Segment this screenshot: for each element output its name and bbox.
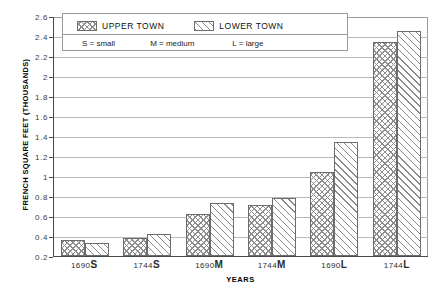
bar-group <box>179 17 241 256</box>
y-axis-tick-mark <box>49 217 53 218</box>
legend-swatch-upper-town <box>77 21 97 31</box>
y-axis-tick-label: 0.6 <box>18 213 48 222</box>
y-axis-tick-label: 2 <box>18 73 48 82</box>
y-axis-tick-label: 0.8 <box>18 193 48 202</box>
y-axis-tick-label: 2.2 <box>18 53 48 62</box>
legend-series-row: UPPER TOWN LOWER TOWN <box>63 17 347 34</box>
y-axis-tick-mark <box>49 177 53 178</box>
bar-lower-town <box>334 142 358 256</box>
bar-chart: FRENCH SQUARE FEET (THOUSANDS) 2.62.42.2… <box>0 0 441 303</box>
x-axis-tick-label: 1690L <box>303 259 365 270</box>
bar-lower-town <box>210 203 234 256</box>
x-axis-tick-label: 1744S <box>116 259 178 270</box>
y-axis-tick-mark <box>49 137 53 138</box>
legend-note-row: S = small M = medium L = large <box>63 35 347 51</box>
x-axis-tick-label: 1690M <box>178 259 240 270</box>
bar-upper-town <box>373 42 397 256</box>
x-axis-tick-label: 1744M <box>241 259 303 270</box>
y-axis-tick-mark <box>49 97 53 98</box>
bar-group <box>241 17 303 256</box>
x-axis-ticks: 1690S1744S1690M1744M1690L1744L <box>53 259 428 270</box>
y-axis-tick-mark <box>49 37 53 38</box>
y-axis-tick-mark <box>49 57 53 58</box>
y-axis-tick-label: 2.6 <box>18 13 48 22</box>
y-axis-tick-label: 0.2 <box>18 253 48 262</box>
y-axis-tick-label: 1 <box>18 173 48 182</box>
y-axis-tick-mark <box>49 77 53 78</box>
legend-label-upper-town: UPPER TOWN <box>102 21 164 31</box>
plot-area <box>53 17 428 257</box>
y-axis-tick-mark <box>49 157 53 158</box>
bar-upper-town <box>123 238 147 256</box>
bar-upper-town <box>248 205 272 256</box>
y-axis-tick-mark <box>49 197 53 198</box>
note-medium: M = medium <box>150 39 194 48</box>
bar-lower-town <box>397 31 421 256</box>
bar-lower-town <box>272 198 296 256</box>
legend: UPPER TOWN LOWER TOWN S = small M = medi… <box>62 13 348 51</box>
y-axis-tick-label: 0.4 <box>18 233 48 242</box>
x-axis-tick-label: 1744L <box>366 259 428 270</box>
y-axis-tick-mark <box>49 257 53 258</box>
y-axis-tick-mark <box>49 237 53 238</box>
bar-group <box>54 17 116 256</box>
bar-lower-town <box>85 243 109 256</box>
y-axis-tick-mark <box>49 17 53 18</box>
y-axis-tick-mark <box>49 117 53 118</box>
bar-upper-town <box>61 240 85 256</box>
note-large: L = large <box>232 39 263 48</box>
y-axis-tick-label: 1.8 <box>18 93 48 102</box>
y-axis-tick-label: 1.6 <box>18 113 48 122</box>
bar-groups <box>54 17 428 256</box>
x-axis-title: YEARS <box>53 275 428 284</box>
bar-upper-town <box>310 172 334 256</box>
note-small: S = small <box>82 39 115 48</box>
y-axis-tick-label: 1.2 <box>18 153 48 162</box>
bar-group <box>303 17 365 256</box>
bar-group <box>116 17 178 256</box>
bar-lower-town <box>147 234 171 256</box>
legend-swatch-lower-town <box>194 21 214 31</box>
legend-label-lower-town: LOWER TOWN <box>219 21 283 31</box>
x-axis-tick-label: 1690S <box>53 259 115 270</box>
y-axis-tick-label: 1.4 <box>18 133 48 142</box>
bar-group <box>366 17 428 256</box>
y-axis-tick-label: 2.4 <box>18 33 48 42</box>
bar-upper-town <box>186 214 210 256</box>
